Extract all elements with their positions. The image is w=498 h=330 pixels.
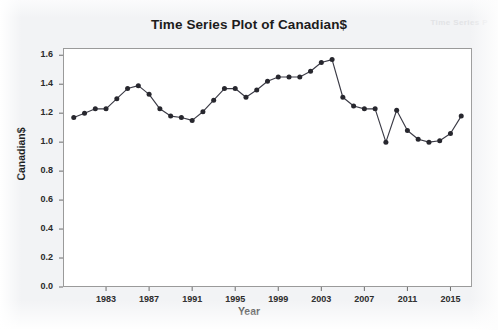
data-point [82, 111, 87, 116]
data-point [383, 140, 388, 145]
data-point [254, 88, 259, 93]
data-point [405, 128, 410, 133]
series-plot [0, 0, 498, 330]
data-point [426, 140, 431, 145]
data-point [319, 60, 324, 65]
data-point [168, 114, 173, 119]
data-point [104, 106, 109, 111]
data-point [394, 108, 399, 113]
series-markers [71, 57, 463, 145]
data-point [287, 74, 292, 79]
data-point [416, 137, 421, 142]
data-point [243, 95, 248, 100]
data-point [136, 83, 141, 88]
data-point [265, 79, 270, 84]
data-point [233, 86, 238, 91]
data-point [125, 86, 130, 91]
series-line [74, 60, 461, 143]
data-point [459, 114, 464, 119]
data-point [200, 109, 205, 114]
data-point [373, 106, 378, 111]
data-point [351, 103, 356, 108]
data-point [114, 96, 119, 101]
data-point [340, 95, 345, 100]
data-point [330, 57, 335, 62]
data-point [222, 86, 227, 91]
data-point [147, 92, 152, 97]
data-point [93, 106, 98, 111]
data-point [190, 118, 195, 123]
chart-figure: Time Series P Time Series Plot of Canadi… [0, 0, 498, 330]
data-point [297, 74, 302, 79]
data-point [448, 131, 453, 136]
data-point [362, 106, 367, 111]
data-point [71, 115, 76, 120]
data-point [179, 115, 184, 120]
data-point [437, 138, 442, 143]
data-point [157, 106, 162, 111]
data-point [211, 98, 216, 103]
data-point [308, 69, 313, 74]
data-point [276, 74, 281, 79]
